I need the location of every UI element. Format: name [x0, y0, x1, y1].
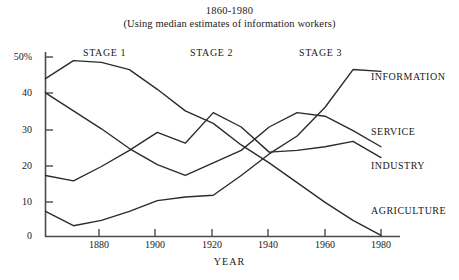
x-axis-ticks: [99, 229, 381, 237]
chart-plot-svg: [0, 0, 459, 280]
chart-container: 1860-1980 (Using median estimates of inf…: [0, 0, 459, 280]
series-paths-group: [46, 61, 382, 236]
series-line-agriculture: [46, 61, 382, 236]
y-axis-ticks: [46, 57, 54, 202]
series-line-information: [46, 70, 382, 226]
series-line-service: [46, 93, 382, 176]
axes-group: [45, 52, 400, 237]
